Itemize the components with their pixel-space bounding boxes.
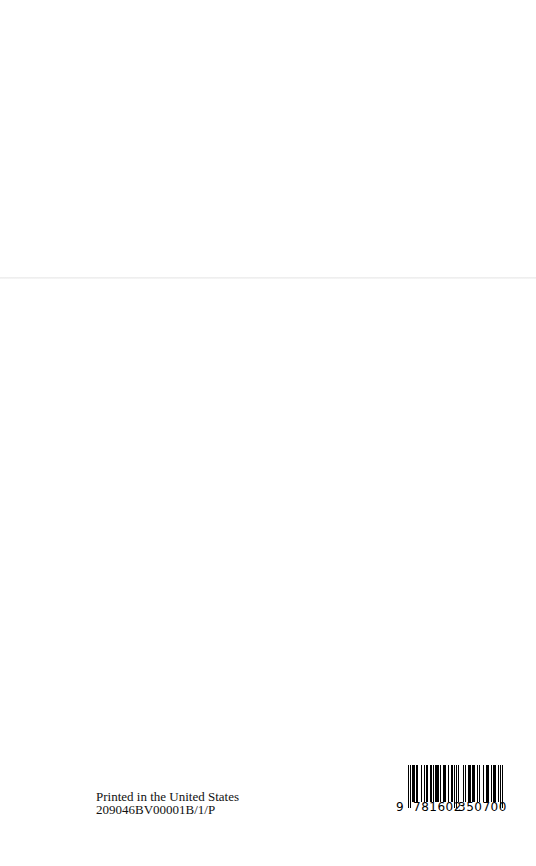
barcode-lead-digit: 9 — [396, 800, 404, 814]
fold-divider — [0, 277, 536, 279]
isbn-barcode: 9 781602 350700 — [396, 765, 511, 813]
barcode-right-digits: 350700 — [458, 800, 507, 814]
imprint-line-code: 209046BV00001B/1/P — [96, 803, 239, 816]
page-top-panel — [0, 0, 536, 278]
printer-imprint: Printed in the United States 209046BV000… — [96, 790, 239, 816]
barcode-left-digits: 781602 — [413, 800, 462, 814]
